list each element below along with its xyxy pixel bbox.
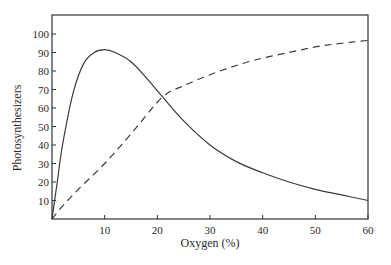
- y-tick-label: 40: [38, 139, 50, 151]
- x-tick-label: 10: [99, 224, 111, 236]
- series-group: [52, 40, 368, 219]
- x-tick-label: 40: [257, 224, 269, 236]
- x-axis-title: Oxygen (%): [181, 236, 240, 250]
- x-tick-label: 20: [152, 224, 164, 236]
- y-tick-label: 80: [38, 65, 50, 77]
- y-tick-label: 20: [38, 176, 50, 188]
- y-tick-label: 30: [38, 158, 50, 170]
- x-axis-ticks: 102030405060: [99, 215, 374, 236]
- x-tick-label: 50: [310, 224, 322, 236]
- y-axis-title: Photosynthesizers: [10, 84, 24, 171]
- x-tick-label: 60: [363, 224, 375, 236]
- x-tick-label: 30: [205, 224, 217, 236]
- dashed-curve: [52, 40, 368, 219]
- plot-frame: [52, 15, 368, 219]
- y-tick-label: 50: [38, 121, 50, 133]
- y-tick-label: 100: [33, 28, 50, 40]
- y-tick-label: 10: [38, 195, 50, 207]
- y-tick-label: 90: [38, 47, 50, 59]
- line-chart: 102030405060708090100 102030405060 Oxyge…: [0, 0, 391, 265]
- y-tick-label: 60: [38, 102, 50, 114]
- y-tick-label: 70: [38, 84, 50, 96]
